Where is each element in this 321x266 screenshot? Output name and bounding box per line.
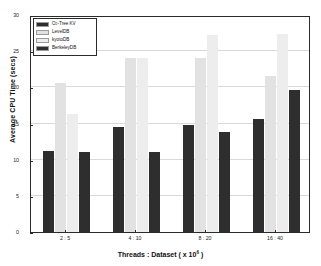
- bar-leveldb-0[interactable]: [55, 83, 66, 232]
- y-tick-label: 25: [0, 49, 19, 54]
- y-tick-label: 15: [0, 122, 19, 127]
- y-tick-label: 20: [0, 85, 19, 90]
- figure-canvas: Average CPU Time (secs) 051015202530 2 :…: [0, 0, 321, 266]
- y-tick-label: 30: [0, 13, 19, 18]
- legend-label: kyotoDB: [52, 38, 69, 43]
- bar-kyotodb-1[interactable]: [137, 58, 148, 232]
- bar-leveldb-3[interactable]: [265, 76, 276, 232]
- x-axis-label: Threads : Dataset ( x 106 ): [0, 250, 321, 258]
- bar-kyotodb-2[interactable]: [207, 35, 218, 232]
- x-axis-label-prefix: Threads : Dataset ( x 10: [118, 251, 197, 258]
- x-tick-label: 16 : 40: [250, 236, 300, 241]
- bar-group: [101, 17, 171, 232]
- y-tick-mark: [30, 88, 33, 89]
- x-axis-label-suffix: ): [199, 251, 203, 258]
- bar-o2-tree-kv-1[interactable]: [113, 127, 124, 232]
- y-tick-mark: [30, 16, 33, 17]
- legend-swatch: [36, 22, 49, 28]
- bar-leveldb-2[interactable]: [195, 58, 206, 232]
- bar-group: [241, 17, 309, 232]
- bar-o2-tree-kv-0[interactable]: [43, 151, 54, 232]
- x-tick-label: 4 : 10: [110, 236, 160, 241]
- legend-swatch: [36, 38, 49, 44]
- bar-kyotodb-0[interactable]: [67, 114, 78, 232]
- y-tick-label: 0: [0, 230, 19, 235]
- legend-swatch: [36, 30, 49, 36]
- x-tick-label: 2 : 5: [40, 236, 90, 241]
- bar-o2-tree-kv-2[interactable]: [183, 125, 194, 232]
- y-tick-label: 10: [0, 158, 19, 163]
- y-tick-mark: [30, 125, 33, 126]
- legend-item-berkeleydb[interactable]: BerkeleyDB: [36, 45, 94, 53]
- x-tick-mark: [205, 230, 206, 233]
- bar-kyotodb-3[interactable]: [277, 34, 288, 232]
- legend-item-leveldb[interactable]: LevelDB: [36, 29, 94, 37]
- bar-group: [171, 17, 241, 232]
- bar-o2-tree-kv-3[interactable]: [253, 119, 264, 232]
- legend-item-o2-tree-kv[interactable]: O2-Tree KV: [36, 21, 94, 29]
- bar-leveldb-1[interactable]: [125, 58, 136, 232]
- y-tick-label: 5: [0, 194, 19, 199]
- legend-swatch: [36, 46, 49, 52]
- legend-label: LevelDB: [52, 30, 69, 35]
- y-axis-label: Average CPU Time (secs): [9, 0, 16, 200]
- bar-berkeleydb-3[interactable]: [289, 90, 300, 232]
- x-tick-mark: [65, 230, 66, 233]
- x-tick-label: 8 : 20: [180, 236, 230, 241]
- legend-label: BerkeleyDB: [52, 46, 76, 51]
- x-tick-mark: [135, 230, 136, 233]
- bar-berkeleydb-1[interactable]: [149, 152, 160, 232]
- y-tick-mark: [30, 197, 33, 198]
- x-tick-mark: [275, 230, 276, 233]
- y-tick-mark: [30, 161, 33, 162]
- bar-berkeleydb-0[interactable]: [79, 152, 90, 232]
- legend-label: O2-Tree KV: [52, 22, 76, 27]
- y-tick-mark: [30, 233, 33, 234]
- bar-berkeleydb-2[interactable]: [219, 132, 230, 232]
- chart-legend[interactable]: O2-Tree KVLevelDBkyotoDBBerkeleyDB: [33, 18, 97, 56]
- legend-item-kyotodb[interactable]: kyotoDB: [36, 37, 94, 45]
